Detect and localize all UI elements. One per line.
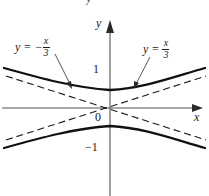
y-tick-label-minus-1: −1 xyxy=(85,140,98,155)
asymptote-negative-label-lhs: y = − xyxy=(15,40,43,54)
lower-hyperbola-branch xyxy=(4,126,205,148)
y-axis-label: y xyxy=(96,16,101,31)
asymptote-negative-fraction: x3 xyxy=(43,36,50,59)
hyperbola-figure: y y = −x3 xyxy=(0,0,209,196)
asymptote-negative-denominator: 3 xyxy=(43,48,50,59)
origin-label: 0 xyxy=(95,110,101,125)
asymptote-positive-numerator: x xyxy=(162,38,169,49)
asymptote-positive-fraction: x3 xyxy=(162,38,169,61)
upper-hyperbola-branch xyxy=(4,68,205,90)
x-axis-label: x xyxy=(194,110,199,125)
asymptote-positive-label-lhs: y = xyxy=(143,42,162,56)
x-axis xyxy=(2,104,203,112)
asymptote-negative-label: y = −x3 xyxy=(15,36,50,59)
asymptote-negative-numerator: x xyxy=(43,36,50,47)
asymptote-positive-label: y = x3 xyxy=(143,38,169,61)
asymptote-positive-denominator: 3 xyxy=(162,50,169,61)
plot-canvas xyxy=(0,0,209,196)
y-tick-label-1: 1 xyxy=(93,62,99,77)
